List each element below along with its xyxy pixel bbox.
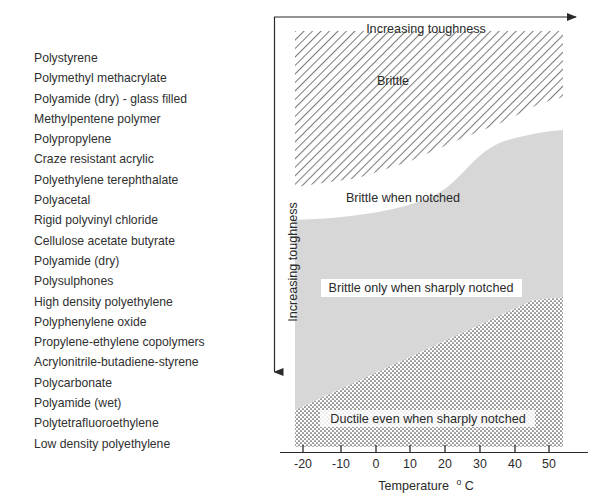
x-axis-title: Temperature o C	[378, 474, 474, 493]
top-axis-title: Increasing toughness	[366, 22, 486, 36]
x-axis-title-text: Temperature	[378, 479, 449, 493]
polymer-list: PolystyrenePolymethyl methacrylatePolyam…	[34, 48, 264, 454]
x-tick-label: 30	[473, 457, 487, 471]
list-item: Propylene-ethylene copolymers	[34, 332, 264, 352]
list-item: Polymethyl methacrylate	[34, 68, 264, 88]
x-tick-label: -20	[294, 457, 312, 471]
list-item: Polyethylene terephthalate	[34, 170, 264, 190]
region-label-brittle: Brittle	[377, 74, 409, 88]
list-item: Low density polyethylene	[34, 434, 264, 454]
list-item: Polyphenylene oxide	[34, 312, 264, 332]
list-item: Polypropylene	[34, 129, 264, 149]
region-label-ductile-even-when-sharply-notched: Ductile even when sharply notched	[330, 412, 525, 426]
list-item: Polystyrene	[34, 48, 264, 68]
list-item: Polyamide (wet)	[34, 393, 264, 413]
x-tick-label: 10	[403, 457, 417, 471]
list-item: Cellulose acetate butyrate	[34, 231, 264, 251]
degree-symbol: o	[456, 477, 461, 487]
list-item: Polycarbonate	[34, 373, 264, 393]
x-tick-label: -10	[332, 457, 350, 471]
list-item: Polyacetal	[34, 190, 264, 210]
y-axis-title: Increasing toughness	[286, 202, 300, 322]
list-item: High density polyethylene	[34, 292, 264, 312]
list-item: Methylpentene polymer	[34, 109, 264, 129]
region-label-brittle-only-when-sharply-notched: Brittle only when sharply notched	[329, 281, 514, 295]
list-item: Craze resistant acrylic	[34, 149, 264, 169]
list-item: Polysulphones	[34, 271, 264, 291]
list-item: Rigid polyvinyl chloride	[34, 210, 264, 230]
list-item: Acrylonitrile-butadiene-styrene	[34, 352, 264, 372]
list-item: Polytetrafluoroethylene	[34, 413, 264, 433]
x-tick-label: 20	[438, 457, 452, 471]
x-tick-label: 50	[542, 457, 556, 471]
x-tick-label: 40	[508, 457, 522, 471]
x-axis-tick-labels: -20 -10 0 10 20 30 40 50	[294, 457, 556, 471]
region-label-brittle-when-notched: Brittle when notched	[346, 191, 460, 205]
list-item: Polyamide (dry) - glass filled	[34, 89, 264, 109]
toughness-chart: -20 -10 0 10 20 30 40 50 Temperature o C…	[258, 0, 614, 500]
list-item: Polyamide (dry)	[34, 251, 264, 271]
celsius-symbol: C	[465, 479, 474, 493]
x-tick-label: 0	[373, 457, 380, 471]
